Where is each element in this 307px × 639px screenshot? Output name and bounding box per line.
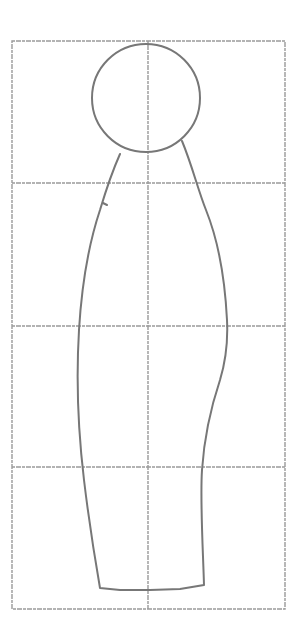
grid — [12, 41, 285, 609]
figure — [78, 44, 228, 590]
head-circle — [92, 44, 200, 152]
body-tick-mark — [103, 203, 107, 205]
body-outline — [78, 141, 228, 590]
sketch-canvas — [0, 0, 307, 639]
